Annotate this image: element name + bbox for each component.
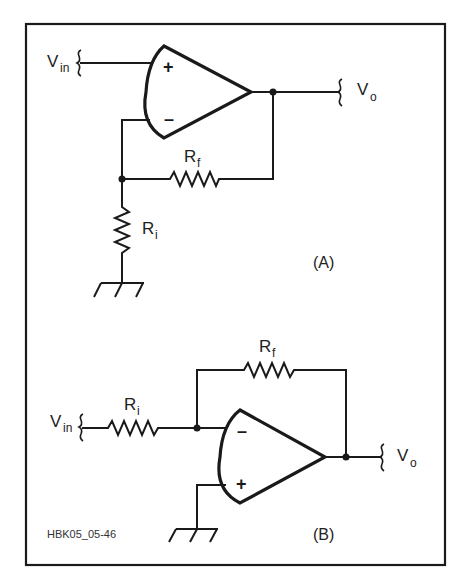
opamp-b <box>219 410 325 503</box>
vo-sub-a: o <box>370 90 377 104</box>
plus-sign-b: + <box>236 474 247 494</box>
vo-label-a: V <box>357 80 369 99</box>
caption-a: (A) <box>313 254 334 271</box>
resistor-ri-a <box>115 179 129 283</box>
rf-label-a: R <box>184 147 196 166</box>
ri-sub-b: i <box>137 404 140 418</box>
resistor-ri-b <box>82 421 197 435</box>
wire-minus-a <box>122 120 150 179</box>
ri-label-b: R <box>124 395 136 414</box>
rf-sub-b: f <box>272 346 276 360</box>
output-terminal-a <box>338 79 342 106</box>
ground-icon-a <box>94 283 144 297</box>
ri-sub-a: i <box>155 228 158 242</box>
vin-label-b: V <box>50 412 62 431</box>
vo-label-b: V <box>397 446 409 465</box>
wire-plus-b <box>197 485 226 529</box>
plus-sign-a: + <box>163 57 174 77</box>
ri-label-a: R <box>142 219 154 238</box>
opamp-figure: V in + – V o R f R i (A) <box>0 0 458 584</box>
minus-sign-a: – <box>164 109 174 129</box>
rf-sub-a: f <box>197 156 201 170</box>
output-terminal-b <box>380 444 384 471</box>
resistor-rf-b <box>197 363 346 457</box>
opamp-a <box>145 46 251 138</box>
junction-out-b <box>343 454 350 461</box>
rf-label-b: R <box>259 337 271 356</box>
ground-icon-b <box>169 529 218 542</box>
vin-label-a: V <box>47 52 59 71</box>
figure-id-label: HBK05_05-46 <box>47 528 116 540</box>
circuit-b: V in R i R f – + V o (B) <box>50 337 417 543</box>
vin-sub-b: in <box>63 421 72 435</box>
caption-b: (B) <box>313 526 334 543</box>
circuit-a: V in + – V o R f R i (A) <box>47 46 377 297</box>
vo-sub-b: o <box>410 456 417 470</box>
minus-sign-b: – <box>237 421 247 441</box>
vin-sub-a: in <box>60 61 69 75</box>
